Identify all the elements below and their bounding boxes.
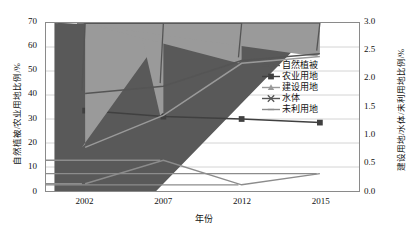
- legend-item[interactable]: 水体: [262, 93, 318, 104]
- legend-item-label: 农业用地: [282, 71, 318, 82]
- x-axis-tick-label: 2015: [312, 196, 330, 206]
- x-axis-tick-label: 2012: [233, 196, 251, 206]
- legend-item-label: 水体: [282, 93, 300, 104]
- x-axis-tick-label: 2007: [154, 196, 172, 206]
- legend-item[interactable]: 自然植被: [262, 60, 318, 71]
- legend-marker-dash-icon: [262, 104, 280, 115]
- legend-item-label: 自然植被: [282, 60, 318, 71]
- legend-marker-cross-icon: [262, 93, 280, 104]
- legend-item-label: 建设用地: [282, 82, 318, 93]
- legend-item[interactable]: 农业用地: [262, 71, 318, 82]
- legend-marker-diamond-icon: [262, 60, 280, 71]
- line-chart: 自然植被/农业用地比例/% 建设用地/水体/未利用地比例/% 年份 010203…: [0, 0, 408, 232]
- legend-item-label: 未利用地: [282, 104, 318, 115]
- legend-marker-triangle-icon: [262, 82, 280, 93]
- legend-item[interactable]: 未利用地: [262, 104, 318, 115]
- legend-item[interactable]: 建设用地: [262, 82, 318, 93]
- legend-marker-square-icon: [262, 71, 280, 82]
- x-axis-tick-label: 2002: [75, 196, 93, 206]
- legend: 自然植被农业用地建设用地水体未利用地: [262, 60, 318, 115]
